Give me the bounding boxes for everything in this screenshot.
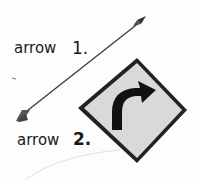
arrow-2-label: arrow: [17, 131, 59, 149]
illustration: [0, 0, 199, 183]
worksheet: arrow 1. arrow 2.: [0, 0, 199, 183]
arrow-1-number: 1.: [72, 38, 88, 58]
arrow-2-number: 2.: [73, 129, 91, 149]
arrow-1-label: arrow: [14, 39, 56, 57]
curve-right-sign-icon: [78, 58, 187, 163]
